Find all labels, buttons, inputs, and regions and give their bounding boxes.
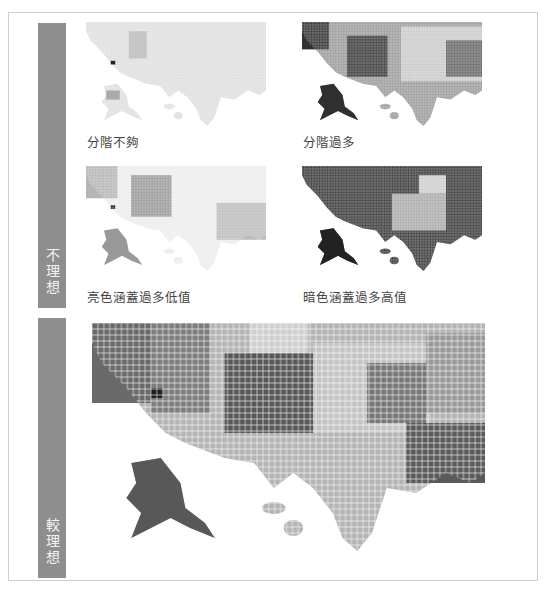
map-dark-covers-high — [302, 166, 482, 272]
map-too-few-classes — [86, 22, 266, 127]
section-label-bad: 不理想 — [38, 23, 66, 308]
section-label-good: 較理想 — [38, 318, 66, 578]
section-label-bad-text: 不理想 — [42, 248, 62, 308]
caption-too-few-classes: 分階不夠 — [87, 132, 139, 151]
caption-dark-covers-high: 暗色涵蓋過多高值 — [303, 287, 407, 306]
section-label-good-text: 較理想 — [42, 518, 62, 578]
map-better-classification — [92, 323, 485, 553]
caption-light-covers-low: 亮色涵蓋過多低值 — [87, 287, 191, 306]
caption-too-many-classes: 分階過多 — [303, 132, 355, 151]
map-too-many-classes — [302, 22, 482, 127]
map-light-covers-low — [86, 166, 266, 272]
